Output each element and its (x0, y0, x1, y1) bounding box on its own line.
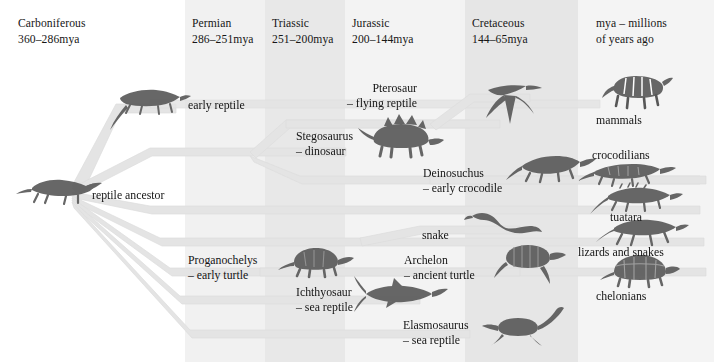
taxon-label-archelon: Archelon– ancient turtle (404, 253, 475, 282)
taxon-name: Deinosuchus (423, 166, 502, 181)
taxon-name: reptile ancestor (92, 188, 164, 203)
taxon-name: Archelon (404, 253, 475, 268)
tiger-icon (602, 76, 673, 108)
taxon-name: Pterosaur (347, 81, 417, 96)
modern-group-chelonians: chelonians (596, 289, 646, 303)
modern-group-mammals: mammals (596, 113, 642, 127)
archelon-icon (494, 245, 566, 284)
period-name: Triassic (272, 16, 334, 32)
taxon-description: – early crocodile (423, 181, 502, 196)
taxon-label-ichthyosaur: Ichthyosaur– sea reptile (296, 285, 353, 314)
period-header-permian: Permian286–251mya (192, 16, 254, 47)
period-name: mya – millions (596, 16, 667, 32)
period-name: Cretaceous (472, 16, 528, 32)
taxon-label-early-reptile: early reptile (188, 98, 245, 113)
taxon-description: – ancient turtle (404, 268, 475, 283)
taxon-name: Elasmosaurus (403, 318, 469, 333)
tortoise-icon (600, 255, 680, 287)
period-name: Jurassic (352, 16, 414, 32)
period-header-cretaceous: Cretaceous144–65mya (472, 16, 528, 47)
evolution-timeline-diagram: Carboniferous360–286myaPermian286–251mya… (0, 0, 714, 362)
taxon-name: early reptile (188, 98, 245, 113)
taxon-label-elasmosaurus: Elasmosaurus– sea reptile (403, 318, 469, 347)
crocodilian-icon (578, 164, 676, 186)
period-years: 144–65mya (472, 32, 528, 48)
period-years: 360–286mya (18, 32, 86, 48)
proganochelys-icon (278, 248, 354, 277)
taxon-label-reptile-ancestor: reptile ancestor (92, 188, 164, 203)
taxon-description: – early turtle (188, 268, 257, 283)
period-years: of years ago (596, 32, 667, 48)
reptile-ancestor-icon (16, 180, 102, 204)
taxon-description: – dinosaur (296, 144, 353, 159)
period-header-jurassic: Jurassic200–144mya (352, 16, 414, 47)
period-header-mya-millions: mya – millionsof years ago (596, 16, 667, 47)
taxon-name: Ichthyosaur (296, 285, 353, 300)
taxon-label-snake: snake (422, 228, 449, 243)
modern-group-crocodilians: crocodilians (592, 148, 650, 162)
period-name: Carboniferous (18, 16, 86, 32)
period-header-carboniferous: Carboniferous360–286mya (18, 16, 86, 47)
modern-group-lizards-and-snakes: lizards and snakes (578, 245, 664, 259)
period-years: 286–251mya (192, 32, 254, 48)
elasmosaurus-icon (482, 307, 564, 346)
taxon-name: snake (422, 228, 449, 243)
taxon-label-proganochelys: Proganochelys– early turtle (188, 253, 257, 282)
pterosaur-icon (486, 85, 542, 124)
taxon-description: – sea reptile (296, 300, 353, 315)
taxon-label-deinosuchus: Deinosuchus– early crocodile (423, 166, 502, 195)
taxon-name: Stegosaurus (296, 129, 353, 144)
taxon-label-pterosaur: Pterosaur– flying reptile (347, 81, 417, 110)
taxon-description: – sea reptile (403, 333, 469, 348)
period-years: 251–200mya (272, 32, 334, 48)
taxon-name: Proganochelys (188, 253, 257, 268)
taxon-description: – flying reptile (347, 96, 417, 111)
organism-artwork-layer (0, 0, 714, 362)
taxon-label-stegosaurus: Stegosaurus– dinosaur (296, 129, 353, 158)
period-years: 200–144mya (352, 32, 414, 48)
period-name: Permian (192, 16, 254, 32)
modern-group-tuatara: tuatara (610, 210, 642, 224)
stegosaurus-icon (358, 114, 444, 157)
early-reptile-icon (110, 90, 191, 130)
period-header-triassic: Triassic251–200mya (272, 16, 334, 47)
snake-icon (464, 213, 542, 233)
